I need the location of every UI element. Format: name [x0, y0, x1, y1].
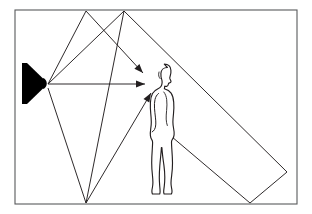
listener-body-outline	[150, 64, 174, 194]
scene-canvas	[0, 0, 312, 214]
speaker-baffle	[22, 63, 27, 104]
listener-figure	[150, 64, 174, 194]
reflection-diagram	[0, 0, 312, 214]
listener-face-contour	[159, 72, 160, 79]
speaker-dust-cap	[43, 78, 47, 89]
ray-arrowhead-floor	[143, 93, 151, 102]
ray-arrowhead-direct	[136, 81, 145, 88]
ray-path-rear-wall	[124, 11, 287, 203]
speaker-cone	[27, 63, 43, 104]
loudspeaker-icon	[22, 63, 47, 104]
ray-path-ceiling-near	[48, 11, 143, 84]
ray-path-floor	[48, 88, 151, 203]
